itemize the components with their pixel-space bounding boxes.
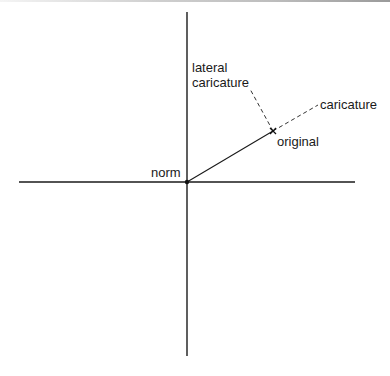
lateral-label-line1: lateral [192,60,249,75]
norm-point-marker [185,180,189,184]
original-label: original [277,134,319,149]
lateral-caricature-dashed-line [250,89,273,131]
caricature-dashed-line [273,105,318,131]
norm-label: norm [151,165,181,180]
caricature-label: caricature [320,97,377,112]
lateral-caricature-label: lateral caricature [192,60,249,90]
diagram-canvas [0,0,390,376]
original-point-marker [270,128,276,134]
norm-to-original-vector [187,131,273,182]
lateral-label-line2: caricature [192,75,249,90]
